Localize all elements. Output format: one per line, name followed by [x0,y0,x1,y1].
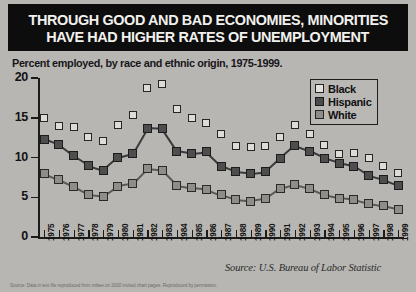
data-point-marker [129,111,137,119]
x-tick [88,230,89,238]
x-tick-label: 1992 [298,224,307,241]
x-tick [177,230,178,238]
data-point-marker [349,195,358,204]
data-point-marker [261,167,270,176]
x-tick [103,230,104,238]
data-point-marker [394,205,403,214]
data-point-marker [231,167,240,176]
x-tick-label: 1983 [165,224,174,241]
x-tick-label: 1996 [357,224,366,241]
data-point-marker [202,185,211,194]
data-point-marker [84,161,93,170]
data-point-marker [40,169,49,178]
data-point-marker [187,183,196,192]
data-point-marker [261,194,270,203]
data-point-marker [54,175,63,184]
data-point-marker [232,142,240,150]
data-point-marker [84,133,92,141]
x-tick [133,230,134,238]
data-point-marker [379,162,387,170]
legend-item-hispanic: Hispanic [315,95,371,108]
x-tick-label: 1980 [121,224,130,241]
data-point-marker [84,190,93,199]
legend-label-black: Black [328,83,356,95]
x-tick [280,230,281,238]
x-tick [44,230,45,238]
data-point-marker [158,124,167,133]
x-tick [192,230,193,238]
legend-label-hispanic: Hispanic [328,96,371,108]
x-tick-label: 1981 [136,224,145,241]
data-point-marker [335,150,343,158]
x-tick-label: 1999 [401,224,410,241]
x-tick [324,230,325,238]
data-point-marker [40,135,49,144]
x-tick [339,230,340,238]
data-point-marker [217,162,226,171]
data-point-marker [276,154,285,163]
x-tick [398,230,399,238]
x-tick-label: 1990 [268,224,277,241]
bottom-caption: Source: Data in text file reproduced fro… [10,283,217,288]
data-point-marker [40,114,48,122]
data-point-marker [305,184,314,193]
x-tick-label: 1989 [254,224,263,241]
data-point-marker [172,147,181,156]
data-point-marker [187,149,196,158]
data-point-marker [172,181,181,190]
x-tick [118,230,119,238]
data-point-marker [99,137,107,145]
y-tick-label: 20 [4,70,28,84]
data-point-marker [349,162,358,171]
chart-page: THROUGH GOOD AND BAD ECONOMIES, MINORITI… [0,0,416,292]
x-tick-label: 1991 [283,224,292,241]
data-point-marker [276,133,284,141]
data-point-marker [99,192,108,201]
x-tick [265,230,266,238]
legend-item-white: White [315,108,371,121]
data-point-marker [188,114,196,122]
title-line-2: HAVE HAD HIGHER RATES OF UNEMPLOYMENT [47,28,370,45]
data-point-marker [335,159,344,168]
data-point-marker [202,119,210,127]
data-point-marker [217,190,226,199]
data-point-marker [306,130,314,138]
source-note: Source: U.S. Bureau of Labor Statistic [225,262,381,273]
y-tick [31,157,38,159]
y-tick-label: 15 [4,110,28,124]
x-tick [236,230,237,238]
data-point-marker [290,180,299,189]
x-tick-label: 1978 [91,224,100,241]
x-tick [383,230,384,238]
title-banner: THROUGH GOOD AND BAD ECONOMIES, MINORITI… [8,4,408,51]
data-point-marker [394,169,402,177]
data-point-marker [379,201,388,210]
data-point-marker [365,154,373,162]
data-point-marker [114,121,122,129]
y-tick-label: 0 [4,229,28,243]
data-point-marker [290,141,299,150]
y-tick-label: 5 [4,189,28,203]
x-tick-label: 1994 [327,224,336,241]
x-tick [59,230,60,238]
x-tick-label: 1979 [106,224,115,241]
data-point-marker [69,151,78,160]
x-tick-label: 1984 [180,224,189,241]
data-point-marker [202,147,211,156]
legend-swatch-hispanic-icon [315,97,324,106]
x-tick-label: 1975 [47,224,56,241]
x-tick [162,230,163,238]
legend-label-white: White [328,109,356,121]
data-point-marker [70,123,78,131]
data-point-marker [246,197,255,206]
data-point-marker [305,147,314,156]
chart-legend: Black Hispanic White [310,79,378,125]
x-tick-label: 1998 [386,224,395,241]
data-point-marker [173,105,181,113]
y-tick-label: 10 [4,150,28,164]
x-tick [369,230,370,238]
y-tick [31,197,38,199]
data-point-marker [320,141,328,149]
data-point-marker [143,124,152,133]
data-point-marker [364,171,373,180]
